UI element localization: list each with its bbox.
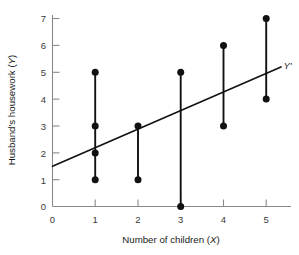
svg-text:Husband's housework (Y): Husband's housework (Y): [6, 55, 17, 166]
x-tick-label-1: 1: [93, 214, 98, 225]
data-point: [92, 123, 99, 130]
scatter-plot-figure: 7 6 5 4 3 2 1 0 0 1 2: [0, 0, 299, 255]
y-tick-label-0: 0: [41, 201, 46, 212]
data-point: [263, 96, 270, 103]
data-point: [92, 69, 99, 76]
data-point: [135, 123, 142, 130]
data-point: [263, 15, 270, 22]
data-point: [135, 176, 142, 183]
y-tick-label-3: 3: [41, 121, 46, 132]
x-tick-label-3: 3: [178, 214, 183, 225]
x-tick-label-4: 4: [221, 214, 226, 225]
y-axis: 7 6 5 4 3 2 1 0: [41, 13, 60, 212]
y-tick-label-2: 2: [41, 148, 46, 159]
y-tick-label-6: 6: [41, 40, 46, 51]
y-tick-label-7: 7: [41, 13, 46, 24]
x-axis-tick-labels: 0 1 2 3 4 5: [50, 214, 269, 225]
data-point: [177, 69, 184, 76]
data-point: [92, 176, 99, 183]
regression-line-label: Y': [284, 60, 293, 71]
regression-line: [53, 67, 282, 166]
y-axis-title-tail: ): [6, 55, 17, 58]
x-tick-label-5: 5: [264, 214, 269, 225]
y-axis-tick-labels: 7 6 5 4 3 2 1 0: [41, 13, 46, 212]
y-tick-label-1: 1: [41, 175, 46, 186]
x-axis-title-text: Number of children (: [122, 234, 211, 245]
data-point: [220, 42, 227, 49]
data-stems: [95, 19, 266, 207]
regression-line-group: Y': [53, 60, 293, 167]
data-point: [220, 123, 227, 130]
y-axis-ticks: [53, 19, 60, 180]
x-axis-title-tail: ): [217, 234, 220, 245]
y-tick-label-4: 4: [41, 94, 46, 105]
x-axis: 0 1 2 3 4 5: [50, 200, 291, 225]
data-point: [177, 203, 184, 210]
y-axis-title: Husband's housework (Y): [6, 55, 17, 166]
x-tick-label-0: 0: [50, 214, 55, 225]
x-axis-title: Number of children (X): [122, 234, 219, 245]
chart-canvas: 7 6 5 4 3 2 1 0 0 1 2: [0, 0, 299, 255]
svg-text:Number of children (X): Number of children (X): [122, 234, 219, 245]
y-tick-label-5: 5: [41, 67, 46, 78]
y-axis-title-text: Husband's housework (: [6, 64, 17, 166]
data-point: [92, 149, 99, 156]
x-tick-label-2: 2: [135, 214, 140, 225]
